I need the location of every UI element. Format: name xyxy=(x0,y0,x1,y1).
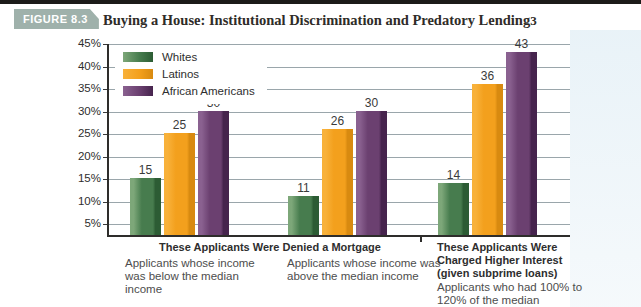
legend-item-african-americans: African Americans xyxy=(123,85,255,97)
bar-rect-whites xyxy=(438,183,469,236)
legend-swatch-latinos xyxy=(123,69,153,79)
bar-value-label: 15 xyxy=(139,164,152,177)
bar-value-label: 11 xyxy=(297,182,309,195)
bar-rect-latinos xyxy=(164,133,195,236)
figure-badge: FIGURE 8.3 xyxy=(14,9,99,29)
y-tick-label: 25% xyxy=(63,127,101,139)
bar-rect-african-americans xyxy=(198,111,229,236)
y-tick-label: 15% xyxy=(63,172,101,184)
legend-label: Latinos xyxy=(162,68,199,80)
bar-value-label: 14 xyxy=(447,169,460,182)
bar-rect-latinos xyxy=(472,84,503,236)
y-axis-line xyxy=(107,44,109,237)
legend-label: African Americans xyxy=(162,85,255,97)
group-label-100-120-median: Applicants who had 100% to 120% of the m… xyxy=(437,281,587,307)
bar-value-label: 30 xyxy=(365,97,378,110)
y-tick-label: 30% xyxy=(63,105,101,117)
section-heading-denied-mortgage: These Applicants Were Denied a Mortgage xyxy=(110,241,430,254)
footnote-marker: 3 xyxy=(530,13,537,28)
legend-swatch-african-americans xyxy=(123,86,153,96)
bar-value-label: 36 xyxy=(481,70,494,83)
bar-value-label: 43 xyxy=(515,38,528,51)
bar-rect-whites xyxy=(130,178,161,236)
bar-value-label: 25 xyxy=(173,119,186,132)
top-rule xyxy=(0,0,641,4)
legend: Whites Latinos African Americans xyxy=(115,47,267,104)
x-axis-line xyxy=(107,235,570,237)
figure-title-text: Buying a House: Institutional Discrimina… xyxy=(103,12,530,28)
y-tick-label: 5% xyxy=(63,217,101,229)
legend-item-latinos: Latinos xyxy=(123,68,255,80)
y-tick-label: 35% xyxy=(63,82,101,94)
x-axis-section-tick xyxy=(420,237,422,242)
y-tick-label: 10% xyxy=(63,195,101,207)
figure-title: Buying a House: Institutional Discrimina… xyxy=(103,12,633,29)
legend-label: Whites xyxy=(162,51,197,63)
legend-item-whites: Whites xyxy=(123,51,255,63)
bar-african-americans-higher-interest: 43 xyxy=(506,38,537,236)
bar-whites-higher-interest: 14 xyxy=(438,169,469,236)
group-label-below-median: Applicants whose income was below the me… xyxy=(125,257,275,296)
bar-rect-african-americans xyxy=(356,111,387,236)
legend-swatch-whites xyxy=(123,52,153,62)
bar-latinos-denied-above-median: 26 xyxy=(322,115,353,236)
bar-whites-denied-above-median: 11 xyxy=(288,182,319,236)
plot-area: 15 25 30 11 26 30 14 36 xyxy=(107,44,570,237)
y-tick-label: 40% xyxy=(63,60,101,72)
bar-rect-whites xyxy=(288,196,319,236)
bar-latinos-higher-interest: 36 xyxy=(472,70,503,236)
bar-african-americans-denied-above-median: 30 xyxy=(356,97,387,236)
bar-value-label: 26 xyxy=(331,115,344,128)
group-label-above-median: Applicants whose income was above the me… xyxy=(287,257,447,283)
section-heading-higher-interest: These Applicants Were Charged Higher Int… xyxy=(437,241,597,280)
bar-rect-latinos xyxy=(322,129,353,236)
bar-african-americans-denied-below-median: 30 xyxy=(198,97,229,236)
y-tick-label: 45% xyxy=(63,37,101,49)
figure-panel: FIGURE 8.3 Buying a House: Institutional… xyxy=(0,0,641,307)
bar-whites-denied-below-median: 15 xyxy=(130,164,161,236)
gridline xyxy=(107,44,570,45)
y-tick-label: 20% xyxy=(63,150,101,162)
bar-latinos-denied-below-median: 25 xyxy=(164,119,195,236)
bar-rect-african-americans xyxy=(506,52,537,236)
